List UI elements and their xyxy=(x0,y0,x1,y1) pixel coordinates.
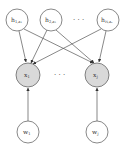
top-ellipsis: · · · xyxy=(73,16,84,24)
node-x1: x1 xyxy=(16,63,40,87)
node-xJ: xJ xyxy=(85,63,109,87)
graphical-model-diagram: h1,a₁ h2,a₂ · · · hN,aₙ x1 · · · xJ w1 w… xyxy=(0,0,124,153)
node-hN: hN,aₙ xyxy=(97,9,119,31)
edge-h1-x1 xyxy=(19,31,26,62)
middle-ellipsis: · · · xyxy=(54,71,65,79)
edge-h2-xJ xyxy=(56,30,94,63)
node-h1: h1,a₁ xyxy=(6,9,28,31)
node-wJ: wJ xyxy=(86,121,108,143)
node-w1: w1 xyxy=(17,121,39,143)
edge-hN-x1 xyxy=(33,29,101,64)
node-h2: h2,a₂ xyxy=(40,9,62,31)
edge-h1-xJ xyxy=(24,29,93,63)
edge-hN-xJ xyxy=(99,31,106,62)
